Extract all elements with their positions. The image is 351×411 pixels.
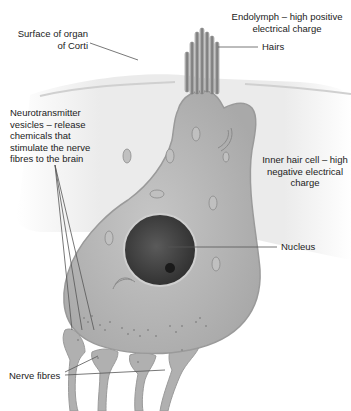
hairs [185,28,219,94]
label-nerve-fibres: Nerve fibres [9,370,60,382]
label-endolymph: Endolymph – high positive electrical cha… [228,11,346,34]
label-neurotransmitter-vesicles: Neurotransmitter vesicles – release chem… [10,107,120,165]
label-surface-organ-of-corti: Surface of organ of Corti [8,28,88,51]
hair-cell-illustration [0,0,351,411]
label-nucleus: Nucleus [281,241,315,253]
label-inner-hair-cell: Inner hair cell – high negative electric… [262,154,348,189]
nucleus [124,214,196,286]
label-hairs: Hairs [262,41,284,53]
